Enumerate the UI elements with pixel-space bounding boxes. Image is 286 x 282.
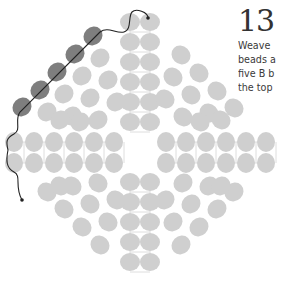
bead <box>168 232 195 259</box>
bead <box>140 233 160 251</box>
bead <box>65 153 83 173</box>
bead <box>257 153 275 173</box>
bead <box>25 132 43 152</box>
bead <box>140 173 160 191</box>
bead <box>120 253 140 271</box>
bead <box>204 78 231 105</box>
bead <box>45 132 63 152</box>
bead <box>140 73 160 91</box>
bead <box>120 113 140 131</box>
bead <box>178 191 205 218</box>
bead <box>178 82 205 109</box>
bead <box>85 153 103 173</box>
bead <box>120 53 140 71</box>
bead <box>77 85 104 112</box>
bead <box>160 64 187 91</box>
step-text-line: beads a <box>238 53 286 67</box>
step-number: 13 <box>238 6 274 36</box>
dark-bead <box>80 23 107 50</box>
bead <box>45 153 63 173</box>
bead <box>217 153 235 173</box>
bead <box>120 33 140 51</box>
bead <box>237 153 255 173</box>
bead <box>87 232 114 259</box>
bead <box>140 213 160 231</box>
dark-bead <box>62 41 89 68</box>
bead <box>186 60 213 87</box>
step-instructions: Weave beads a five B b the top <box>238 39 286 95</box>
bead <box>85 170 112 197</box>
bead <box>170 170 197 197</box>
bead <box>120 73 140 91</box>
step-text-line: Weave <box>238 39 286 53</box>
bead <box>51 196 78 223</box>
bead <box>95 67 122 94</box>
thread-end-dot <box>146 16 150 20</box>
bead <box>140 53 160 71</box>
bead <box>217 132 235 152</box>
bead <box>105 153 123 173</box>
bead <box>157 153 175 173</box>
bead <box>25 153 43 173</box>
bead <box>51 81 78 108</box>
bead <box>257 132 275 152</box>
step-text-line: five B b <box>238 67 286 81</box>
bead <box>186 214 213 241</box>
bead <box>177 132 195 152</box>
bead <box>95 209 122 236</box>
bead <box>77 191 104 218</box>
bead <box>140 253 160 271</box>
bead <box>87 45 114 72</box>
bead <box>140 113 160 131</box>
bead <box>177 153 195 173</box>
dark-bead <box>9 94 36 121</box>
bead <box>157 132 175 152</box>
bead <box>69 63 96 90</box>
bead <box>160 209 187 236</box>
bead <box>69 214 96 241</box>
thread-end-dot <box>20 198 24 202</box>
bead <box>103 89 130 116</box>
dark-bead <box>44 59 71 86</box>
bead <box>204 196 231 223</box>
bead <box>197 132 215 152</box>
step-text-line: the top <box>238 81 286 95</box>
bead <box>140 13 160 31</box>
bead <box>85 132 103 152</box>
bead <box>140 33 160 51</box>
bead <box>105 132 123 152</box>
bead <box>237 132 255 152</box>
bead <box>120 213 140 231</box>
bead <box>168 42 195 69</box>
bead <box>197 153 215 173</box>
bead <box>65 132 83 152</box>
bead <box>120 233 140 251</box>
dark-bead <box>27 77 54 104</box>
bead <box>120 173 140 191</box>
